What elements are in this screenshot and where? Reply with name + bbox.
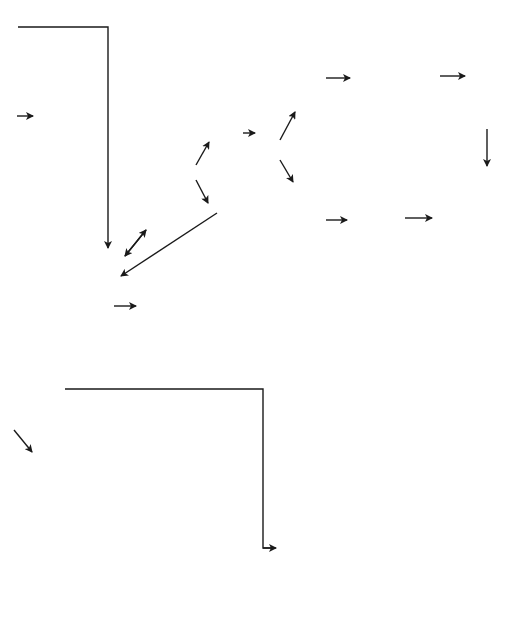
connector-lines bbox=[0, 0, 524, 635]
